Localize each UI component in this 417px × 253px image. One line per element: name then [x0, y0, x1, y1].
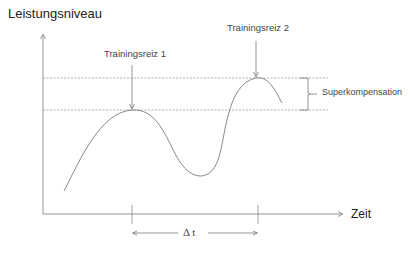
stimulus-2-arrow: [254, 41, 259, 77]
supercompensation-label: Superkompensation: [322, 87, 402, 97]
y-axis-label: Leistungsniveau: [8, 6, 102, 21]
stimulus-1-label: Trainingsreiz 1: [104, 48, 166, 59]
stimulus-2-label: Trainingsreiz 2: [227, 22, 289, 33]
delta-t-arrow-left: [133, 231, 179, 235]
delta-t-label: Δ t: [183, 226, 195, 238]
x-axis-label: Zeit: [351, 207, 371, 221]
supercompensation-brace: [300, 78, 317, 110]
performance-curve: [64, 78, 282, 191]
x-axis: [43, 212, 343, 217]
y-axis: [41, 34, 46, 214]
delta-t-arrow-right: [208, 231, 258, 235]
stimulus-1-arrow: [130, 65, 135, 109]
